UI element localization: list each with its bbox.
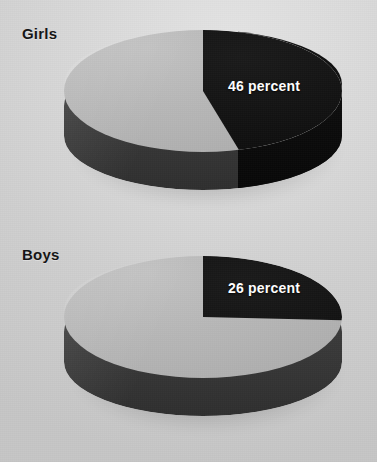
pie-top-face-boys [64,256,342,378]
pie-top-face-girls [64,30,342,152]
pie-slice-boys-highlight[interactable] [64,256,342,378]
pie-slice-girls-highlight[interactable] [64,30,342,152]
figure-canvas: Girls 46 percent Boys 26 percent [0,0,377,462]
chart-title-girls: Girls [22,25,57,42]
pie-slice-label-girls: 46 percent [228,78,300,94]
pie-chart-boys: 26 percent [64,256,346,438]
pie-slice-label-boys: 26 percent [228,280,300,296]
pie-chart-girls: 46 percent [64,30,346,212]
chart-title-boys: Boys [22,246,59,263]
